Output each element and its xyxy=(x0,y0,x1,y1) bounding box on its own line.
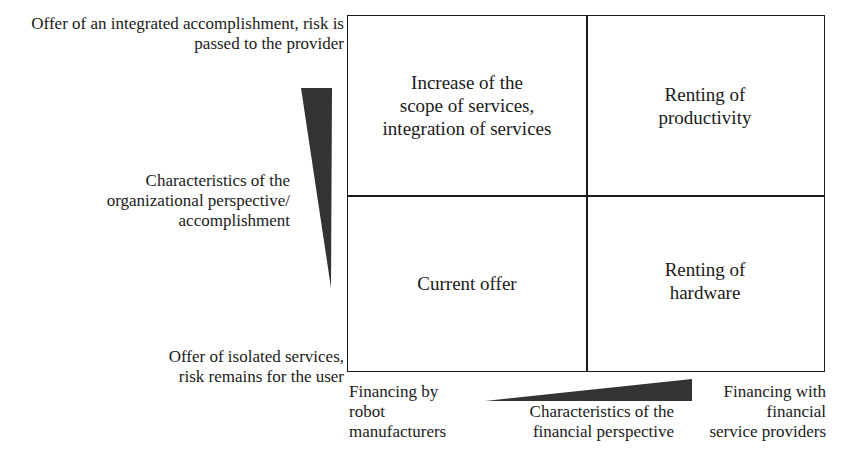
quadrant-top-right: Renting of productivity xyxy=(587,16,823,195)
quadrant-bottom-left: Current offer xyxy=(348,196,586,371)
quadrant-bottom-right: Renting of hardware xyxy=(587,196,823,371)
x-axis-right-label-line: financial xyxy=(680,402,826,422)
x-axis-title: Characteristics of the financial perspec… xyxy=(494,402,674,442)
quadrant-text-line: hardware xyxy=(665,281,746,304)
x-axis-left-label: Financing by robot manufacturers xyxy=(349,382,479,442)
quadrant-text-line: Renting of xyxy=(659,83,752,106)
x-axis-title-line: financial perspective xyxy=(494,422,674,442)
quadrant-text-line: Current offer xyxy=(417,272,516,295)
x-axis-left-label-line: robot xyxy=(349,402,479,422)
quadrant-top-left: Increase of the scope of services, integ… xyxy=(348,16,586,195)
quadrant-text-line: scope of services, xyxy=(383,94,552,117)
x-axis-right-label-line: Financing with xyxy=(680,382,826,402)
quadrant-text-line: Renting of xyxy=(665,258,746,281)
quadrant-text-line: Increase of the xyxy=(383,71,552,94)
x-axis-right-label-line: service providers xyxy=(680,422,826,442)
x-axis-right-label: Financing with financial service provide… xyxy=(680,382,826,442)
x-axis-title-line: Characteristics of the xyxy=(494,402,674,422)
quadrant-text-line: integration of services xyxy=(383,117,552,140)
x-axis-left-label-line: Financing by xyxy=(349,382,479,402)
quadrant-matrix: Increase of the scope of services, integ… xyxy=(347,15,825,372)
quadrant-text-line: productivity xyxy=(659,106,752,129)
x-axis-left-label-line: manufacturers xyxy=(349,422,479,442)
